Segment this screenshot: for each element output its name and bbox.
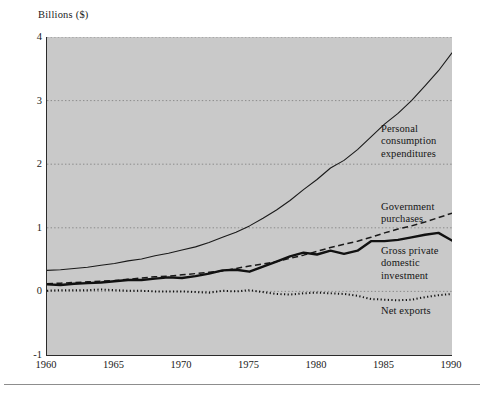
annotation-government-purchases: Government purchases bbox=[381, 201, 435, 226]
y-axis-tick-labels: 4 3 2 1 0 -1 bbox=[20, 37, 42, 355]
annotation-line: purchases bbox=[381, 213, 435, 225]
annotation-line: Net exports bbox=[381, 305, 431, 317]
annotation-gross-private-domestic-investment: Gross private domestic investment bbox=[381, 245, 439, 282]
annotation-line: Government bbox=[381, 201, 435, 213]
x-axis-tick-labels: 1960 1965 1970 1975 1980 1985 1990 bbox=[46, 360, 451, 376]
annotation-personal-consumption-expenditures: Personal consumption expenditures bbox=[381, 123, 436, 160]
y-tick-label: 4 bbox=[20, 32, 42, 43]
annotation-line: investment bbox=[381, 270, 439, 282]
series-line bbox=[47, 289, 452, 300]
annotation-line: consumption bbox=[381, 135, 436, 147]
y-tick-label: 0 bbox=[20, 286, 42, 297]
plot-area: Personal consumption expenditures Govern… bbox=[46, 37, 452, 356]
annotation-line: domestic bbox=[381, 257, 439, 269]
y-tick-label: 2 bbox=[20, 159, 42, 170]
series-line bbox=[47, 53, 452, 271]
x-tick-label: 1965 bbox=[103, 360, 124, 371]
y-axis-caption: Billions ($) bbox=[38, 9, 89, 20]
annotation-net-exports: Net exports bbox=[381, 305, 431, 317]
x-tick-label: 1960 bbox=[36, 360, 57, 371]
x-tick-label: 1985 bbox=[373, 360, 394, 371]
x-tick-label: 1975 bbox=[238, 360, 259, 371]
annotation-line: Gross private bbox=[381, 245, 439, 257]
x-tick-label: 1990 bbox=[441, 360, 462, 371]
page-divider-rule bbox=[4, 384, 480, 385]
annotation-line: Personal bbox=[381, 123, 436, 135]
y-tick-label: 1 bbox=[20, 223, 42, 234]
x-tick-label: 1970 bbox=[171, 360, 192, 371]
y-tick-label: 3 bbox=[20, 96, 42, 107]
chart-figure: Billions ($) 4 3 2 1 0 -1 Personal consu… bbox=[0, 0, 484, 399]
x-tick-label: 1980 bbox=[306, 360, 327, 371]
annotation-line: expenditures bbox=[381, 148, 436, 160]
